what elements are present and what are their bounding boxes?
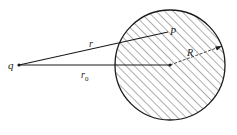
label-P: P <box>169 26 176 37</box>
label-R: R <box>186 47 193 58</box>
label-r: r <box>89 38 93 49</box>
center-dot <box>168 63 171 66</box>
label-q: q <box>8 59 14 71</box>
label-r0: r0 <box>81 69 89 83</box>
charge-dot <box>17 63 20 66</box>
sphere-point-charge-diagram: q P r r0 R <box>0 0 237 135</box>
